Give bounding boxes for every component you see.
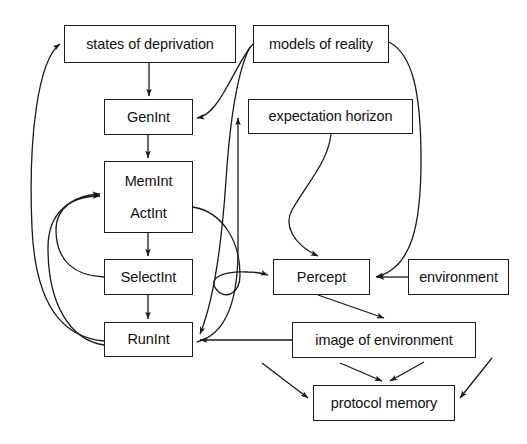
edge-runint-to-deprivation	[31, 44, 104, 341]
node-label-actint: ActInt	[130, 205, 166, 222]
node-label: image of environment	[315, 332, 452, 349]
node-runint[interactable]: RunInt	[104, 322, 193, 357]
node-label-memint: MemInt	[125, 173, 173, 190]
edge-runint-to-expectation	[197, 118, 238, 342]
node-genint[interactable]: GenInt	[104, 99, 193, 135]
edge-environment-to-protocol	[460, 358, 492, 398]
node-expectation-horizon[interactable]: expectation horizon	[248, 99, 413, 134]
edge-selectint-to-memint	[56, 194, 104, 277]
node-states-of-deprivation[interactable]: states of deprivation	[64, 25, 236, 63]
node-memint-actint[interactable]: MemInt ActInt	[104, 161, 193, 233]
edge-percept-to-image	[318, 295, 384, 318]
node-label: expectation horizon	[269, 108, 393, 125]
node-models-of-reality[interactable]: models of reality	[253, 25, 389, 63]
node-label: states of deprivation	[86, 36, 214, 53]
node-environment[interactable]: environment	[408, 259, 509, 295]
node-label: environment	[419, 269, 498, 286]
diagram-connectors-layer	[0, 0, 527, 444]
node-protocol-memory[interactable]: protocol memory	[313, 385, 455, 421]
edge-runint-to-protocol	[262, 363, 308, 398]
node-image-of-environment[interactable]: image of environment	[292, 322, 476, 358]
node-selectint[interactable]: SelectInt	[104, 259, 193, 295]
edge-models-to-percept	[376, 42, 421, 277]
node-label: RunInt	[127, 331, 169, 348]
node-percept[interactable]: Percept	[273, 259, 370, 295]
edge-image-to-protocol-b	[390, 362, 424, 381]
edge-expectation-to-percept	[289, 134, 331, 256]
node-label: models of reality	[269, 36, 373, 53]
node-label: protocol memory	[331, 395, 437, 412]
edge-image-to-protocol-a	[340, 363, 382, 381]
edge-memint-to-percept	[193, 207, 268, 295]
node-label: Percept	[297, 269, 346, 286]
diagram-canvas: states of deprivation models of reality …	[0, 0, 527, 444]
node-label: GenInt	[127, 109, 170, 126]
node-label: SelectInt	[121, 269, 177, 286]
